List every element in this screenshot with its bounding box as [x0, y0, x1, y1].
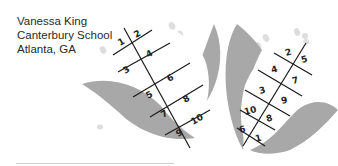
divider-line	[16, 163, 174, 164]
left-corn-cob: 1 2 3 4 5 6 7 8 9 10	[82, 24, 220, 148]
corn-cob-illustration: 1 2 3 4 5 6 7 8 9 10 2 5	[0, 0, 338, 166]
right-corn-cob: 2 5 4 7 3 9 10 8 6 1	[226, 24, 338, 155]
